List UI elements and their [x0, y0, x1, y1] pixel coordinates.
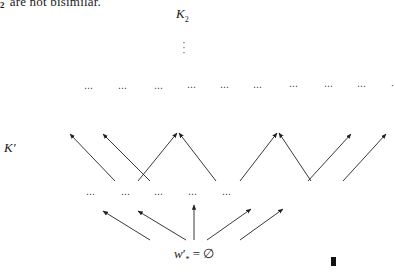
upper-arrow-group	[70, 133, 386, 181]
lower-arrow-4	[207, 209, 251, 240]
equals-sign: =	[193, 246, 200, 261]
upper-arrow-4	[179, 133, 216, 181]
lower-arrow-5	[240, 209, 283, 240]
lower-arrow-1	[103, 211, 150, 240]
empty-set-symbol: ∅	[203, 246, 214, 261]
upper-arrow-6	[279, 133, 311, 181]
transition-arrows	[0, 0, 395, 272]
upper-arrow-5	[240, 133, 277, 181]
world-variable: w	[174, 246, 183, 261]
lower-arrow-group	[103, 205, 283, 240]
upper-arrow-7	[308, 134, 351, 181]
star-subscript: *	[186, 255, 190, 264]
qed-box-icon	[331, 257, 336, 266]
upper-arrow-2	[103, 134, 150, 181]
upper-arrow-8	[343, 134, 386, 181]
upper-arrow-3	[138, 133, 177, 181]
upper-arrow-1	[70, 134, 115, 181]
lower-arrow-2	[138, 211, 186, 240]
root-world-formula: w′* = ∅	[174, 246, 214, 264]
